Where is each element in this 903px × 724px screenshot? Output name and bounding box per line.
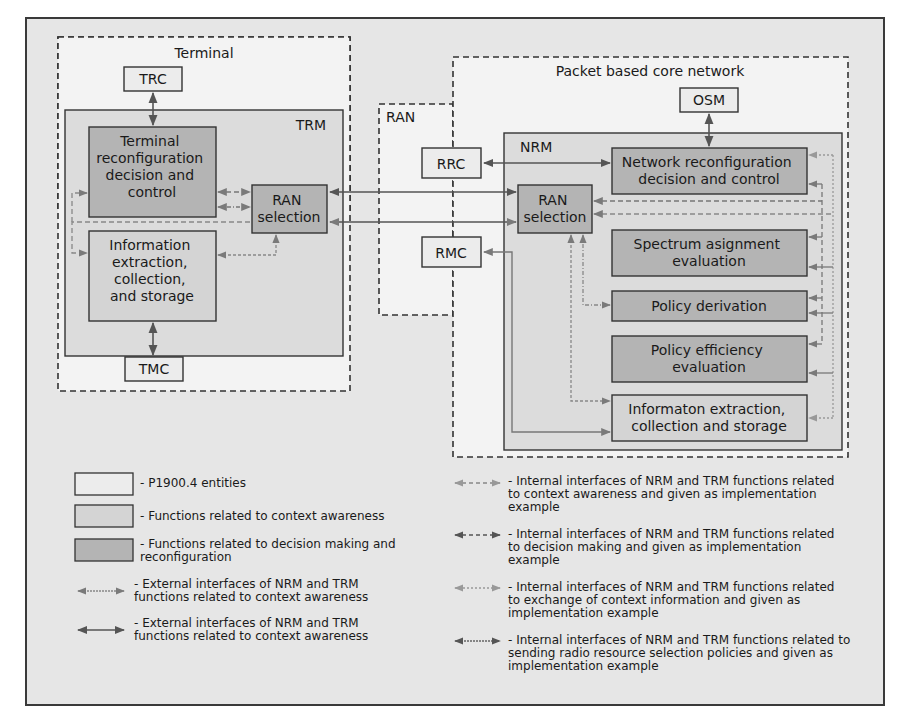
svg-text:Information extraction,: Information extraction, collection, and …: [109, 237, 195, 304]
network-reconfiguration-function: Network reconfiguration decision and con…: [612, 148, 807, 194]
osm-entity: OSM: [680, 88, 738, 112]
core-network-label: Packet based core network: [556, 63, 745, 79]
legend-decision-swatch: [75, 539, 133, 561]
legend-entity-swatch: [75, 473, 133, 495]
legend-internal-decision-label: - Internal interfaces of NRM and TRM fun…: [508, 528, 838, 567]
tmc-label: TMC: [138, 361, 170, 377]
legend-internal-context-label: - Internal interfaces of NRM and TRM fun…: [508, 475, 838, 514]
ran-label: RAN: [386, 109, 415, 125]
legend-context-label: - Functions related to context awareness: [140, 510, 440, 523]
trm-label: TRM: [295, 117, 326, 133]
svg-text:Policy derivation: Policy derivation: [651, 298, 767, 314]
rmc-entity: RMC: [422, 237, 481, 267]
svg-text:Informaton extraction, c: Informaton extraction, collection and st…: [628, 401, 790, 434]
trm-ran-selection-function: RAN selection: [252, 185, 327, 233]
tmc-entity: TMC: [125, 357, 183, 381]
spectrum-assignment-function: Spectrum asignment evaluation: [612, 230, 807, 276]
trm-information-extraction-function: Information extraction, collection, and …: [89, 231, 216, 321]
nrm-label: NRM: [520, 139, 552, 155]
legend-external-context-label-1: - External interfaces of NRM and TRM fun…: [134, 578, 404, 604]
rrc-label: RRC: [437, 156, 466, 172]
rrc-entity: RRC: [422, 148, 481, 178]
terminal-label: Terminal: [173, 45, 233, 61]
legend-entities-label: - P1900.4 entities: [140, 477, 440, 490]
trc-label: TRC: [138, 71, 167, 87]
legend-internal-policy-label: - Internal interfaces of NRM and TRM fun…: [508, 634, 853, 673]
legend-external-context-label-2: - External interfaces of NRM and TRM fun…: [134, 617, 404, 643]
nrm-information-extraction-function: Informaton extraction, collection and st…: [612, 395, 807, 441]
legend-decision-label: - Functions related to decision making a…: [140, 538, 410, 564]
trc-entity: TRC: [124, 67, 182, 91]
nrm-ran-selection-function: RAN selection: [518, 185, 592, 233]
policy-efficiency-function: Policy efficiency evaluation: [612, 336, 807, 382]
rmc-label: RMC: [435, 245, 467, 261]
terminal-reconfiguration-function: Terminal reconfiguration decision and co…: [89, 127, 216, 217]
legend-context-swatch: [75, 505, 133, 527]
legend-internal-exchange-label: - Internal interfaces of NRM and TRM fun…: [508, 581, 843, 620]
policy-derivation-function: Policy derivation: [612, 291, 807, 321]
osm-label: OSM: [693, 92, 725, 108]
svg-text:Network reconfiguration: Network reconfiguration decision and con…: [622, 154, 796, 187]
ran-region: RAN: [379, 104, 453, 315]
